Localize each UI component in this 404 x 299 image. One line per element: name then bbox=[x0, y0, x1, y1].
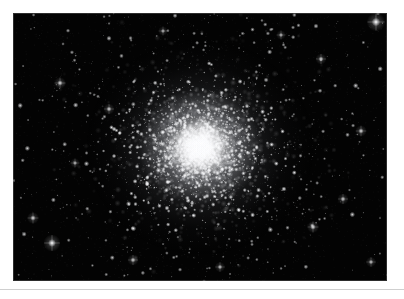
star-point-layer bbox=[13, 13, 387, 281]
astronomy-photo-plate bbox=[13, 13, 387, 281]
page-canvas: Black-and-white astronomical photograph … bbox=[0, 0, 404, 299]
page-bottom-rule bbox=[0, 289, 404, 290]
